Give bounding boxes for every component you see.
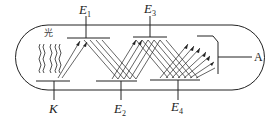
light-waves [39, 44, 61, 73]
electron-paths [58, 40, 215, 79]
label-k: K [48, 101, 59, 116]
label-e1: E1 [78, 2, 91, 19]
diagram-canvas: 光 E1 E3 K E2 E4 A [0, 0, 276, 124]
light-label: 光 [44, 27, 53, 38]
photomultiplier-diagram: 光 E1 E3 K E2 E4 A [0, 0, 276, 124]
label-a: A [254, 50, 263, 64]
label-e4: E4 [170, 99, 183, 116]
label-e3: E3 [143, 1, 156, 18]
label-e2: E2 [113, 101, 126, 118]
